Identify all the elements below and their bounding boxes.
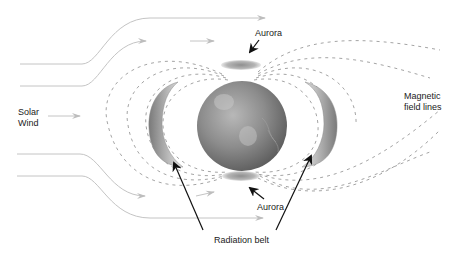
field-line-tail-3 xyxy=(260,152,430,189)
field-line-tail-1 xyxy=(258,41,440,72)
aurora-bottom-pointer xyxy=(250,188,264,199)
flow-line-bot-inner xyxy=(17,154,145,196)
solar-wind-label-line1: Solar xyxy=(18,107,39,118)
aurora-south xyxy=(222,171,260,181)
field-line-tail-4 xyxy=(258,130,440,191)
diagram-canvas xyxy=(0,0,454,253)
solar-wind-label: Solar Wind xyxy=(18,107,39,129)
aurora-top-pointer xyxy=(250,40,259,52)
radiation-belt-left-pointer xyxy=(174,163,203,230)
solar-wind-label-line2: Wind xyxy=(18,118,39,129)
magnetosphere-diagram: Solar Wind Magnetic field lines Aurora A… xyxy=(0,0,454,253)
radiation-belt-label: Radiation belt xyxy=(214,235,269,246)
magnetic-field-label-line2: field lines xyxy=(404,102,442,113)
earth-highlight-2 xyxy=(239,126,257,146)
radiation-belt-right xyxy=(302,82,337,167)
earth-globe xyxy=(197,81,287,171)
aurora-north xyxy=(221,60,261,70)
earth-highlight-1 xyxy=(214,94,234,110)
magnetic-field-label: Magnetic field lines xyxy=(404,91,442,113)
magnetic-field-label-line1: Magnetic xyxy=(404,91,442,102)
field-line-tail-2 xyxy=(258,58,430,78)
flow-line-bot-short xyxy=(196,192,214,196)
radiation-belt-right-pointer xyxy=(276,156,311,230)
aurora-bottom-label: Aurora xyxy=(257,202,284,213)
aurora-top-label: Aurora xyxy=(255,28,282,39)
flow-line-bot-outer xyxy=(17,176,263,218)
